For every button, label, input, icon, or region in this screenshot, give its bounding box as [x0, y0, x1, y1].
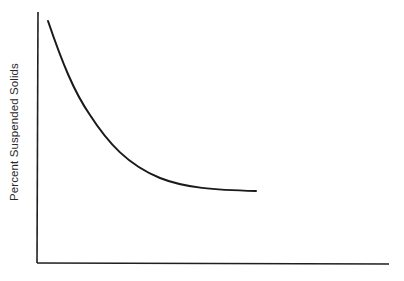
y-axis-label-text: Percent Suspended Solids	[8, 63, 20, 201]
x-axis-label-cropped	[0, 274, 404, 281]
decay-curve	[48, 21, 256, 191]
y-axis	[37, 12, 38, 263]
chart-canvas	[0, 0, 404, 281]
x-axis	[37, 263, 389, 264]
y-axis-label: Percent Suspended Solids	[6, 44, 22, 220]
